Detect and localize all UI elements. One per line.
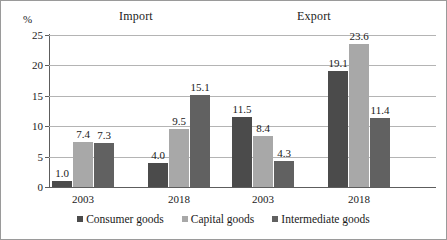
bar-value-label-consumer-0: 1.0 (55, 167, 69, 179)
panel-title-export: Export (297, 9, 331, 24)
y-tick-label-25: 25 (21, 29, 43, 41)
bar-value-label-capital-0: 7.4 (76, 128, 90, 140)
y-tick-label-0: 0 (21, 181, 43, 193)
y-axis-unit-label: % (23, 13, 32, 25)
bar-capital-3 (349, 44, 369, 187)
bar-consumer-3 (328, 71, 348, 187)
bar-value-label-consumer-1: 4.0 (151, 149, 165, 161)
bar-value-label-intermediate-3: 11.4 (371, 104, 390, 116)
bar-capital-2 (253, 136, 273, 187)
legend-item-consumer[interactable]: Consumer goods (77, 213, 164, 225)
y-tick-mark-15 (45, 96, 49, 97)
bar-intermediate-2 (274, 161, 294, 187)
y-tick-label-10: 10 (21, 120, 43, 132)
chart-figure: Import Export % 1.07.47.34.09.515.111.58… (0, 0, 447, 240)
legend-swatch-consumer-icon (77, 216, 83, 222)
bar-intermediate-1 (190, 95, 210, 187)
y-tick-mark-20 (45, 65, 49, 66)
category-label-2: 2003 (252, 193, 274, 205)
y-tick-mark-0 (45, 187, 49, 188)
chart-legend: Consumer goodsCapital goodsIntermediate … (1, 213, 446, 225)
bar-consumer-2 (232, 117, 252, 187)
bar-value-label-intermediate-0: 7.3 (97, 129, 111, 141)
legend-item-intermediate[interactable]: Intermediate goods (272, 213, 369, 225)
bar-value-label-intermediate-1: 15.1 (190, 81, 209, 93)
y-tick-mark-10 (45, 126, 49, 127)
bar-consumer-1 (148, 163, 168, 187)
x-axis-line (49, 187, 436, 188)
bar-value-label-consumer-2: 11.5 (233, 103, 252, 115)
y-tick-mark-25 (45, 35, 49, 36)
category-label-1: 2018 (168, 193, 190, 205)
gridline-25 (49, 35, 436, 36)
legend-label-intermediate: Intermediate goods (281, 213, 369, 225)
bar-capital-0 (73, 142, 93, 187)
category-label-0: 2003 (72, 193, 94, 205)
bar-intermediate-0 (94, 143, 114, 187)
y-tick-mark-5 (45, 157, 49, 158)
bar-value-label-capital-2: 8.4 (256, 122, 270, 134)
gridline-20 (49, 65, 436, 66)
legend-swatch-capital-icon (182, 216, 188, 222)
legend-label-consumer: Consumer goods (86, 213, 164, 225)
panel-title-import: Import (119, 9, 153, 24)
gridline-15 (49, 96, 436, 97)
bar-value-label-capital-3: 23.6 (349, 30, 368, 42)
bar-capital-1 (169, 129, 189, 187)
category-label-3: 2018 (348, 193, 370, 205)
bar-value-label-consumer-3: 19.1 (328, 57, 347, 69)
legend-swatch-intermediate-icon (272, 216, 278, 222)
bar-consumer-0 (52, 181, 72, 187)
y-tick-label-5: 5 (21, 151, 43, 163)
bar-value-label-capital-1: 9.5 (172, 115, 186, 127)
bar-intermediate-3 (370, 118, 390, 187)
plot-area: 1.07.47.34.09.515.111.58.44.319.123.611.… (49, 35, 436, 187)
y-tick-label-20: 20 (21, 59, 43, 71)
y-tick-label-15: 15 (21, 90, 43, 102)
legend-item-capital[interactable]: Capital goods (182, 213, 255, 225)
legend-label-capital: Capital goods (191, 213, 255, 225)
bar-value-label-intermediate-2: 4.3 (277, 147, 291, 159)
